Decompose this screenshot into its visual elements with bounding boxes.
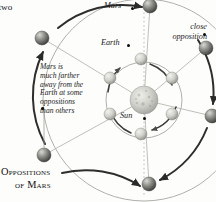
figure-caption: Oppositions of Mars — [1, 166, 97, 191]
left-body-text: ery two rbit ries 7 y. — [0, 2, 40, 55]
figure-canvas: ery two rbit ries 7 y. Mars is much fart… — [0, 0, 216, 202]
close-opposition-line-2: opposition — [153, 32, 207, 42]
left-text-line-3: ries — [0, 23, 40, 34]
close-opposition-label: close opposition — [153, 22, 207, 41]
left-text-line-2: rbit — [0, 13, 40, 24]
left-text-line-1: ery two — [0, 2, 40, 13]
mars-label-dot — [131, 7, 134, 10]
mars-label: Mars — [104, 1, 121, 10]
earth-label: Earth — [101, 38, 120, 47]
annotation-line-6: than others — [40, 107, 102, 116]
sun-body — [130, 86, 158, 114]
left-text-line-5: y. — [0, 44, 40, 55]
caption-line-1: Oppositions — [1, 166, 50, 177]
caption-line-2: of Mars — [1, 179, 97, 192]
annotation-bullet-dot — [41, 107, 44, 110]
close-opposition-dot — [203, 33, 206, 36]
sun-label-dot — [143, 117, 146, 120]
mars-distance-annotation: Mars is much farther away from the Earth… — [40, 63, 102, 116]
left-text-line-4: 7 — [0, 34, 40, 45]
close-opposition-line-1: close — [153, 22, 207, 32]
earth-label-dot — [127, 44, 130, 47]
sun-label: Sun — [120, 111, 132, 120]
